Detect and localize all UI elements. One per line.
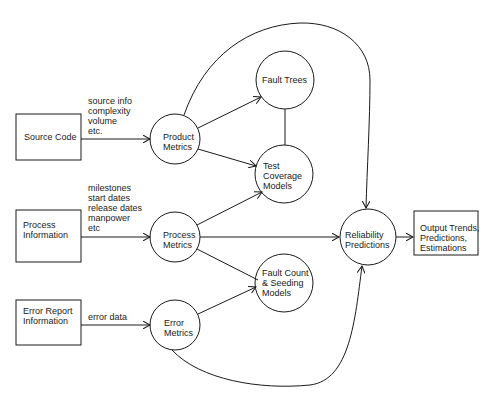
error-metrics-label: Error Metrics: [164, 318, 193, 338]
process-metrics-label: Process Metrics: [163, 230, 196, 250]
source-code-label: Source Code: [24, 132, 77, 142]
arrow-product-to-test-coverage: [198, 149, 256, 166]
process-information-annotation: milestones start dates release dates man…: [88, 183, 142, 233]
fault-trees-label: Fault Trees: [262, 75, 307, 85]
fault-count-seeding-models-label: Fault Count & Seeding Models: [262, 268, 309, 298]
source-code-annotation: source info complexity volume etc.: [88, 96, 132, 136]
arrow-error-to-fault-count: [198, 287, 256, 314]
test-coverage-models-label: Test Coverage Models: [263, 161, 302, 191]
process-information-label: Process Information: [23, 220, 68, 240]
arrow-process-to-test-coverage: [197, 192, 262, 225]
error-report-annotation: error data: [88, 312, 127, 322]
output-label: Output Trends, Predictions, Estimations: [420, 223, 480, 253]
line-process-to-fault-count: [197, 249, 258, 280]
reliability-predictions-label: Reliability Predictions: [345, 230, 390, 250]
arrow-product-to-fault-trees: [198, 97, 261, 128]
error-report-information-label: Error Report Information: [23, 306, 73, 326]
product-metrics-label: Product Metrics: [163, 132, 194, 152]
diagram-canvas: [0, 0, 496, 404]
